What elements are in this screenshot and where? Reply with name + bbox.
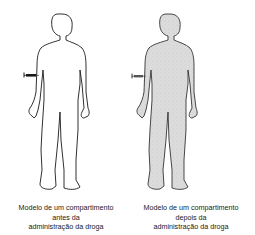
body-outline [29, 14, 89, 189]
caption-line: administração da droga [2, 222, 130, 232]
syringe-icon [132, 74, 146, 79]
caption-line: antes da [2, 213, 130, 223]
caption-before: Modelo de um compartimento antes da admi… [2, 203, 130, 232]
caption-after: Modelo de um compartimento depois da adm… [127, 203, 255, 232]
human-body-icon [0, 0, 128, 200]
figure-after-drug [128, 0, 255, 200]
caption-line: Modelo de um compartimento [127, 203, 255, 213]
caption-line: Modelo de um compartimento [2, 203, 130, 213]
caption-line: administração da droga [127, 222, 255, 232]
figure-before-drug [0, 0, 128, 200]
caption-line: depois da [127, 213, 255, 223]
body-outline-filled [137, 14, 197, 189]
human-body-icon [128, 0, 255, 200]
